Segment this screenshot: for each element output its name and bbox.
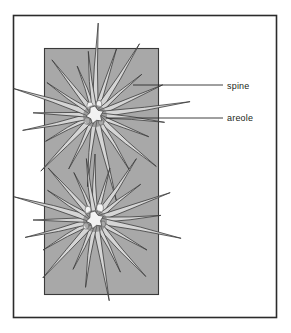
cactus-diagram-figure: spineareole [0,0,291,333]
label-spine: spine [227,81,250,91]
label-areole: areole [227,113,253,123]
diagram-canvas: spineareole [0,0,291,333]
